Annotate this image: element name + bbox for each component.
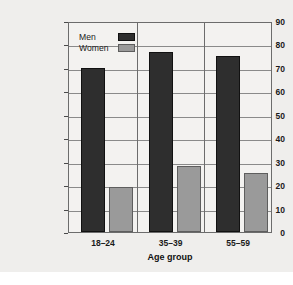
bar-men-35-39 [149, 52, 173, 233]
bar-men-55-59 [216, 56, 240, 232]
x-tick-label-18-24: 18–24 [68, 238, 138, 248]
men-swatch-icon [118, 33, 135, 41]
x-tick-label-55-59: 55–59 [203, 238, 273, 248]
legend-entry-women: Women [79, 42, 135, 53]
plot-area: Men Women [68, 22, 272, 233]
legend-entry-men: Men [79, 31, 135, 42]
legend-label-men: Men [79, 32, 118, 42]
x-axis-title: Age group [68, 252, 272, 262]
chart-legend: Men Women [79, 31, 135, 53]
bar-women-55-59 [244, 173, 268, 232]
bar-men-18-24 [81, 68, 105, 232]
x-tick-label-35-39: 35–39 [136, 238, 206, 248]
bar-women-18-24 [109, 187, 133, 232]
chart-figure: Respondents who report they always have … [0, 0, 293, 272]
legend-label-women: Women [79, 43, 118, 53]
plot-inner: Men Women [69, 23, 271, 232]
group-separator [137, 23, 138, 232]
y-tick-mark [64, 233, 68, 234]
women-swatch-icon [118, 44, 135, 52]
group-separator [204, 23, 205, 232]
bar-women-35-39 [177, 166, 201, 232]
